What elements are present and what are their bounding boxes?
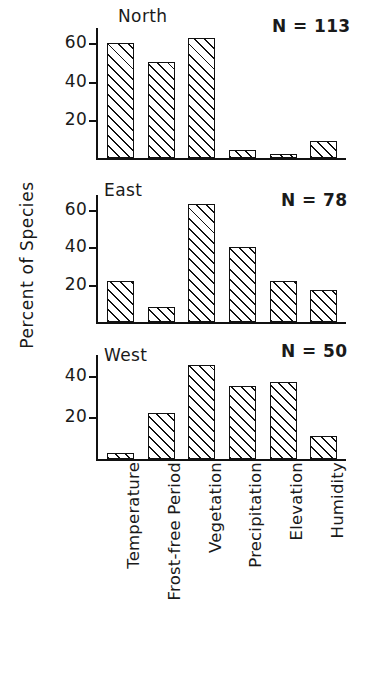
y-axis-tick — [89, 417, 96, 419]
y-axis-tick — [89, 376, 96, 378]
sample-size-label-north: N = 113 — [272, 16, 351, 36]
y-axis-line — [96, 28, 98, 158]
bar — [188, 204, 215, 322]
bar — [310, 290, 337, 322]
y-axis-tick — [89, 247, 96, 249]
sample-size-label-west: N = 50 — [281, 341, 347, 361]
bar — [148, 413, 175, 459]
y-axis-tick-label: 20 — [65, 276, 87, 293]
plot-area-north: 204060 — [96, 28, 340, 158]
figure: Percent of Species 204060NorthN = 113 20… — [0, 0, 381, 677]
sample-size-label-east: N = 78 — [281, 190, 347, 210]
bar — [270, 154, 297, 158]
bar — [107, 281, 134, 322]
bar — [148, 307, 175, 322]
bar — [310, 436, 337, 459]
y-axis-tick-label: 60 — [65, 34, 87, 51]
y-axis-tick — [89, 210, 96, 212]
panel-title-east: East — [104, 180, 142, 200]
x-axis-label: Temperature — [126, 462, 143, 569]
x-axis-line — [96, 158, 346, 160]
bar — [229, 247, 256, 322]
y-axis-tick-label: 40 — [65, 73, 87, 90]
x-axis-label: Elevation — [289, 462, 306, 540]
bar — [229, 150, 256, 158]
bar — [229, 386, 256, 459]
bar — [107, 453, 134, 459]
y-axis-tick-label: 20 — [65, 111, 87, 128]
bar — [148, 62, 175, 158]
x-axis-line — [96, 459, 346, 461]
y-axis-tick — [89, 120, 96, 122]
plot-area-east: 204060 — [96, 195, 340, 322]
y-axis-tick-label: 60 — [65, 201, 87, 218]
x-axis-line — [96, 322, 346, 324]
panel-title-north: North — [118, 6, 168, 26]
y-axis-tick-label: 40 — [65, 238, 87, 255]
y-axis-tick-label: 20 — [65, 409, 87, 426]
bar — [270, 382, 297, 459]
plot-area-west: 2040 — [96, 355, 340, 459]
y-axis-line — [96, 195, 98, 322]
y-axis-tick — [89, 285, 96, 287]
x-axis-label: Vegetation — [208, 462, 225, 553]
bar — [107, 43, 134, 158]
bar — [310, 141, 337, 158]
panel-east: 204060EastN = 78 — [0, 162, 381, 327]
panel-north: 204060NorthN = 113 — [0, 0, 381, 172]
y-axis-line — [96, 355, 98, 459]
panel-title-west: West — [104, 345, 147, 365]
x-axis-category-labels: TemperatureFrost-free PeriodVegetationPr… — [0, 462, 381, 677]
bar — [270, 281, 297, 322]
y-axis-tick-label: 40 — [65, 367, 87, 384]
bar — [188, 38, 215, 158]
bar — [188, 365, 215, 459]
x-axis-label: Precipitation — [248, 462, 265, 568]
x-axis-label: Humidity — [330, 462, 347, 538]
y-axis-tick — [89, 82, 96, 84]
y-axis-tick — [89, 43, 96, 45]
panel-west: 2040WestN = 50 — [0, 327, 381, 467]
x-axis-label: Frost-free Period — [167, 462, 184, 600]
